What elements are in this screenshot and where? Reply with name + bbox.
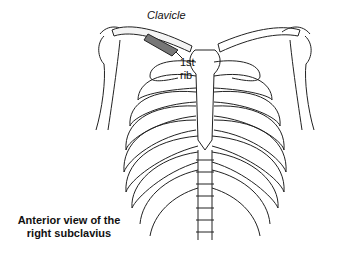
ribs-right-side (124, 61, 198, 236)
figure-caption: Anterior view of the right subclavius (14, 214, 124, 240)
left-shoulder (96, 27, 128, 130)
first-rib-label-line2: rib (180, 69, 192, 81)
left-clavicle (218, 28, 300, 52)
first-rib-label-line1: 1st (180, 56, 195, 68)
ribs-left-side (212, 61, 286, 236)
right-clavicle (112, 27, 192, 56)
clavicle-label: Clavicle (147, 9, 186, 21)
spine (196, 150, 214, 240)
right-shoulder (282, 27, 314, 130)
